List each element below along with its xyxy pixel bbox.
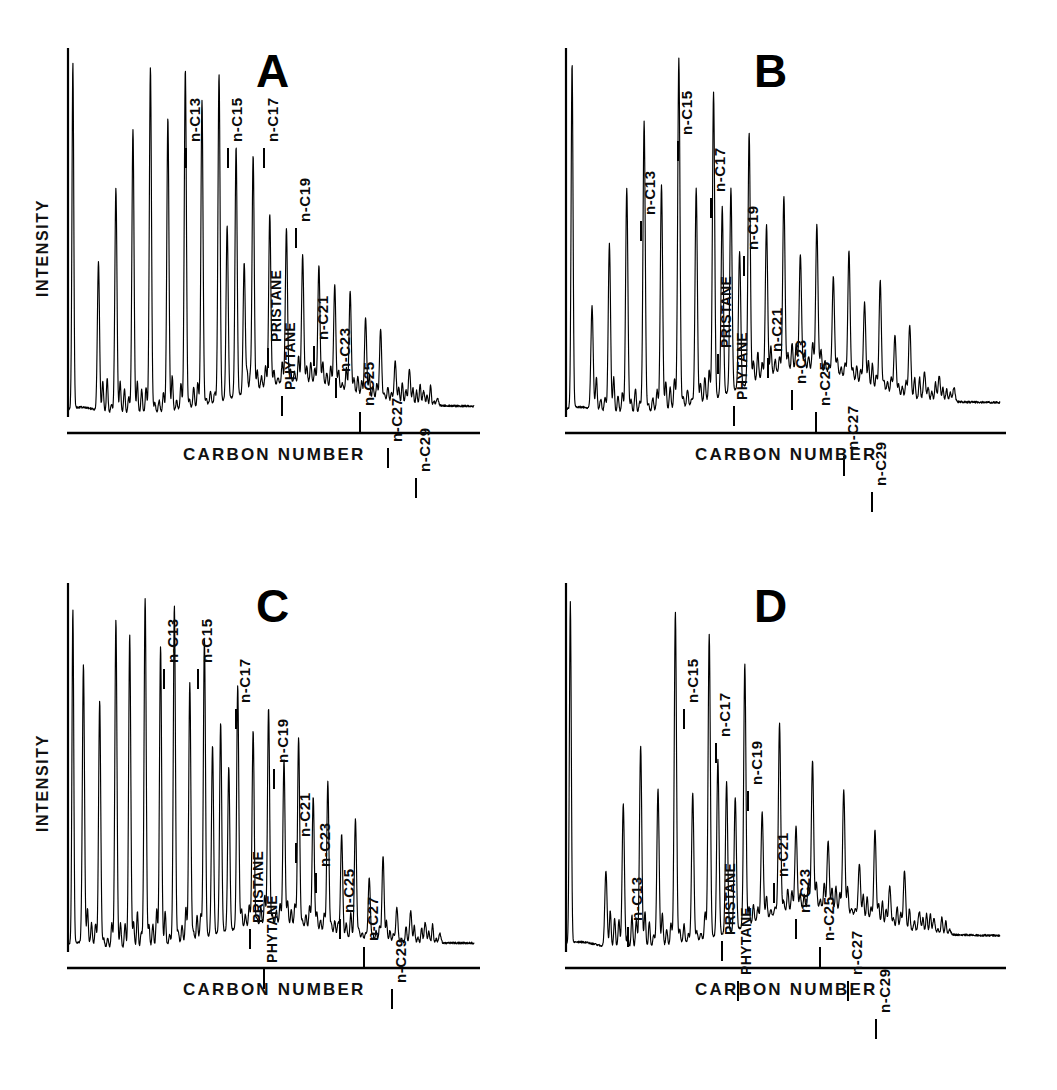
panel-letter-c: C	[256, 583, 289, 629]
peak-leader-line	[791, 390, 793, 410]
peak-leader-line	[197, 669, 199, 689]
peak-label-n-c29: n-C29	[392, 938, 409, 983]
peak-label-n-c29: n-C29	[876, 968, 893, 1013]
peak-leader-line	[819, 947, 821, 967]
peak-label-n-c17: n-C17	[711, 147, 728, 192]
peak-label-n-c27: n-C27	[364, 896, 381, 941]
chromatogram-figure: An-C13n-C15n-C17n-C19PRISTANEPHYTANEn-C2…	[0, 0, 1057, 1090]
peak-leader-line	[335, 378, 337, 398]
peak-leader-line	[227, 148, 229, 168]
peak-leader-line	[359, 412, 361, 432]
peak-label-n-c21: n-C21	[774, 832, 791, 877]
peak-label-n-c13: n-C13	[628, 876, 645, 921]
peak-leader-line	[815, 412, 817, 432]
peak-leader-line	[391, 989, 393, 1009]
peak-leader-line	[743, 256, 745, 276]
peak-leader-line	[387, 448, 389, 468]
peak-label-n-c27: n-C27	[844, 405, 861, 450]
peak-leader-line	[263, 148, 265, 168]
peak-leader-line	[267, 348, 269, 368]
peak-leader-line	[313, 346, 315, 366]
peak-label-n-c21: n-C21	[314, 295, 331, 340]
peak-label-n-c15: n-C15	[678, 90, 695, 135]
peak-leader-line	[415, 478, 417, 498]
chromatogram-panel-b: Bn-C13n-C15n-C17n-C19PRISTANEPHYTANEn-C2…	[546, 20, 1008, 527]
chromatogram-panel-d: Dn-C13n-C15n-C17n-C19PRISTANEPHYTANEn-C2…	[546, 555, 1008, 1062]
chromatogram-panel-a: An-C13n-C15n-C17n-C19PRISTANEPHYTANEn-C2…	[20, 20, 482, 527]
peak-leader-line	[273, 769, 275, 789]
peak-leader-line	[683, 709, 685, 729]
peak-label-n-c21: n-C21	[768, 307, 785, 352]
x-axis-title: CARBON NUMBER	[183, 980, 366, 1000]
peak-leader-line	[721, 941, 723, 961]
peak-leader-line	[795, 919, 797, 939]
x-axis-title: CARBON NUMBER	[695, 445, 878, 465]
peak-label-n-c25: n-C25	[360, 361, 377, 406]
peak-label-n-c17: n-C17	[264, 97, 281, 142]
peak-label-n-c17: n-C17	[236, 658, 253, 703]
peak-leader-line	[715, 743, 717, 763]
peak-leader-line	[871, 492, 873, 512]
peak-label-n-c19: n-C19	[296, 177, 313, 222]
panel-letter-a: A	[256, 48, 289, 94]
peak-label-n-c15: n-C15	[198, 618, 215, 663]
peak-label-n-c27: n-C27	[388, 397, 405, 442]
peak-leader-line	[363, 947, 365, 967]
peak-label-n-c23: n-C23	[792, 339, 809, 384]
peak-label-n-c19: n-C19	[744, 205, 761, 250]
peak-label-n-c17: n-C17	[716, 692, 733, 737]
chromatogram-panel-c: Cn-C13n-C15n-C17n-C19PRISTANEPHYTANEn-C2…	[20, 555, 482, 1062]
peak-leader-line	[733, 406, 735, 426]
peak-label-n-c23: n-C23	[796, 868, 813, 913]
peak-label-n-c23: n-C23	[336, 327, 353, 372]
peak-leader-line	[185, 148, 187, 168]
peak-leader-line	[249, 929, 251, 949]
panel-letter-b: B	[754, 48, 787, 94]
peak-leader-line	[295, 228, 297, 248]
peak-label-n-c25: n-C25	[816, 361, 833, 406]
peak-label-n-c13: n-C13	[186, 97, 203, 142]
peak-label-n-c13: n-C13	[641, 170, 658, 215]
peak-label-n-c25: n-C25	[820, 896, 837, 941]
peak-leader-line	[235, 709, 237, 729]
peak-label-phytane: PHYTANE	[734, 332, 750, 400]
peak-label-phytane: PHYTANE	[738, 907, 754, 975]
peak-label-n-c19: n-C19	[748, 740, 765, 785]
peak-leader-line	[710, 198, 712, 218]
peak-leader-line	[315, 873, 317, 893]
peak-leader-line	[163, 669, 165, 689]
peak-label-n-c25: n-C25	[340, 868, 357, 913]
peak-leader-line	[717, 354, 719, 374]
peak-label-n-c29: n-C29	[416, 427, 433, 472]
peak-label-pristane: PRISTANE	[718, 276, 734, 348]
chromatogram-trace	[566, 58, 1000, 411]
peak-leader-line	[773, 883, 775, 903]
y-axis-title: INTENSITY	[34, 199, 52, 297]
x-axis-title: CARBON NUMBER	[183, 445, 366, 465]
x-axis-title: CARBON NUMBER	[695, 980, 878, 1000]
y-axis-title: INTENSITY	[34, 734, 52, 832]
peak-leader-line	[627, 927, 629, 947]
peak-leader-line	[747, 791, 749, 811]
peak-label-n-c27: n-C27	[848, 930, 865, 975]
peak-label-n-c23: n-C23	[316, 822, 333, 867]
peak-label-n-c15: n-C15	[684, 658, 701, 703]
peak-label-phytane: PHYTANE	[282, 322, 298, 390]
peak-label-n-c15: n-C15	[228, 97, 245, 142]
peak-leader-line	[339, 919, 341, 939]
peak-label-pristane: PRISTANE	[722, 863, 738, 935]
peak-leader-line	[281, 396, 283, 416]
peak-label-phytane: PHYTANE	[264, 895, 280, 963]
peak-leader-line	[677, 141, 679, 161]
peak-leader-line	[640, 221, 642, 241]
peak-label-n-c19: n-C19	[274, 718, 291, 763]
peak-leader-line	[767, 358, 769, 378]
peak-label-n-c21: n-C21	[296, 792, 313, 837]
peak-leader-line	[875, 1019, 877, 1039]
panel-letter-d: D	[754, 583, 787, 629]
peak-leader-line	[295, 843, 297, 863]
peak-label-n-c13: n-C13	[164, 618, 181, 663]
